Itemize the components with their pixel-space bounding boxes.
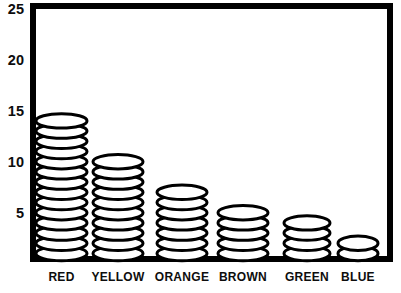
oval-counter-brown-5: [218, 206, 268, 220]
y-tick-label: 25: [8, 1, 24, 17]
x-category-label: GREEN: [285, 270, 329, 284]
x-category-label: BROWN: [219, 270, 267, 284]
oval-counter-blue-2: [338, 236, 378, 250]
y-tick-label: 10: [8, 154, 24, 170]
x-category-label: BLUE: [341, 270, 375, 284]
oval-counter-green-4: [284, 216, 330, 230]
y-tick-label: 15: [8, 103, 24, 119]
oval-counter-red-14: [36, 114, 87, 128]
oval-counter-orange-7: [157, 185, 207, 199]
pictograph-figure: 510152025REDYELLOWORANGEBROWNGREENBLUE: [0, 0, 401, 293]
x-category-label: YELLOW: [91, 270, 145, 284]
x-category-label: ORANGE: [155, 270, 209, 284]
chart-svg: 510152025REDYELLOWORANGEBROWNGREENBLUE: [0, 0, 401, 293]
x-category-label: RED: [48, 270, 74, 284]
y-tick-label: 20: [8, 52, 24, 68]
y-tick-label: 5: [16, 205, 24, 221]
oval-counter-yellow-10: [93, 155, 143, 169]
